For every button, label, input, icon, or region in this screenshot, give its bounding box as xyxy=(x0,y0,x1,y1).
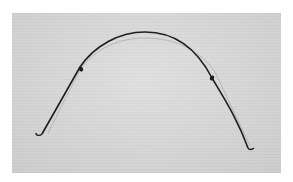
main-archwire xyxy=(42,32,248,148)
right-hook xyxy=(248,148,254,150)
left-hook xyxy=(36,133,42,135)
archwire-illustration xyxy=(0,0,293,182)
